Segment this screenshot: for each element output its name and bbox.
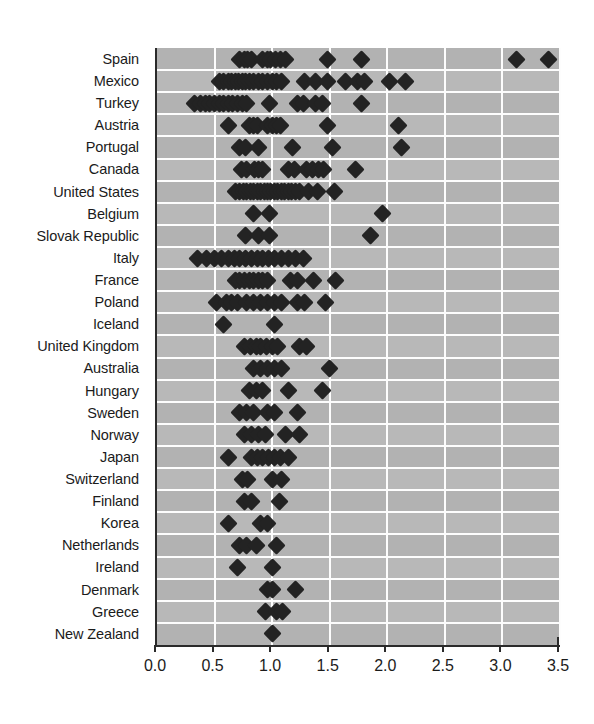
row-band — [157, 534, 560, 556]
category-label-japan: Japan — [0, 450, 139, 465]
x-tick-3.5 — [557, 645, 559, 652]
x-tick-label-1.5: 1.5 — [298, 657, 358, 675]
category-label-new-zealand: New Zealand — [0, 627, 139, 642]
category-label-poland: Poland — [0, 295, 139, 310]
row-separator — [157, 423, 560, 425]
x-tick-2.5 — [442, 645, 444, 652]
category-label-finland: Finland — [0, 494, 139, 509]
x-tick-1.0 — [269, 645, 271, 652]
plot-area — [155, 48, 560, 645]
row-band — [157, 203, 560, 225]
row-separator — [157, 91, 560, 93]
row-separator — [157, 578, 560, 580]
x-tick-0.5 — [212, 645, 214, 652]
row-band — [157, 380, 560, 402]
category-label-portugal: Portugal — [0, 140, 139, 155]
row-separator — [157, 489, 560, 491]
category-label-denmark: Denmark — [0, 583, 139, 598]
x-tick-label-0.5: 0.5 — [183, 657, 243, 675]
gridline-2.0 — [386, 48, 388, 645]
row-separator — [157, 312, 560, 314]
category-label-belgium: Belgium — [0, 207, 139, 222]
category-axis-labels: SpainMexicoTurkeyAustriaPortugalCanadaUn… — [0, 48, 147, 645]
row-band — [157, 181, 560, 203]
row-separator — [157, 511, 560, 513]
row-separator — [157, 180, 560, 182]
row-separator — [157, 113, 560, 115]
row-separator — [157, 445, 560, 447]
gridline-2.5 — [444, 48, 446, 645]
row-separator — [157, 401, 560, 403]
x-tick-3.0 — [499, 645, 501, 652]
x-tick-label-2.0: 2.0 — [355, 657, 415, 675]
category-label-canada: Canada — [0, 162, 139, 177]
category-label-spain: Spain — [0, 52, 139, 67]
category-label-greece: Greece — [0, 605, 139, 620]
row-band — [157, 468, 560, 490]
row-separator — [157, 158, 560, 160]
x-tick-label-1.0: 1.0 — [240, 657, 300, 675]
category-label-ireland: Ireland — [0, 560, 139, 575]
row-band — [157, 623, 560, 645]
row-band — [157, 557, 560, 579]
gridline-0.5 — [214, 48, 216, 645]
row-band — [157, 335, 560, 357]
dot-plot-chart: SpainMexicoTurkeyAustriaPortugalCanadaUn… — [0, 0, 594, 724]
row-separator — [157, 622, 560, 624]
row-separator — [157, 135, 560, 137]
category-label-australia: Australia — [0, 361, 139, 376]
category-label-turkey: Turkey — [0, 96, 139, 111]
gridline-3.5 — [559, 48, 561, 645]
row-band — [157, 601, 560, 623]
row-separator — [157, 334, 560, 336]
category-label-united-kingdom: United Kingdom — [0, 339, 139, 354]
category-label-netherlands: Netherlands — [0, 538, 139, 553]
row-separator — [157, 357, 560, 359]
category-label-slovak-republic: Slovak Republic — [0, 229, 139, 244]
category-label-mexico: Mexico — [0, 74, 139, 89]
category-label-france: France — [0, 273, 139, 288]
category-label-italy: Italy — [0, 251, 139, 266]
category-label-switzerland: Switzerland — [0, 472, 139, 487]
row-band — [157, 269, 560, 291]
row-band — [157, 225, 560, 247]
row-band — [157, 136, 560, 158]
x-tick-0.0 — [154, 645, 156, 652]
category-label-korea: Korea — [0, 516, 139, 531]
row-separator — [157, 379, 560, 381]
x-tick-label-3.5: 3.5 — [528, 657, 588, 675]
row-band — [157, 114, 560, 136]
x-tick-label-2.5: 2.5 — [413, 657, 473, 675]
category-label-norway: Norway — [0, 428, 139, 443]
x-tick-label-0.0: 0.0 — [125, 657, 185, 675]
x-tick-2.0 — [384, 645, 386, 652]
row-band — [157, 490, 560, 512]
row-separator — [157, 202, 560, 204]
row-band — [157, 446, 560, 468]
row-separator — [157, 600, 560, 602]
row-band — [157, 579, 560, 601]
category-label-austria: Austria — [0, 118, 139, 133]
category-label-sweden: Sweden — [0, 406, 139, 421]
row-separator — [157, 268, 560, 270]
row-band — [157, 358, 560, 380]
row-separator — [157, 556, 560, 558]
row-separator — [157, 467, 560, 469]
row-separator — [157, 224, 560, 226]
row-separator — [157, 290, 560, 292]
row-band — [157, 424, 560, 446]
category-label-iceland: Iceland — [0, 317, 139, 332]
x-tick-label-3.0: 3.0 — [470, 657, 530, 675]
x-tick-1.5 — [327, 645, 329, 652]
row-separator — [157, 69, 560, 71]
row-separator — [157, 246, 560, 248]
category-label-united-states: United States — [0, 185, 139, 200]
row-band — [157, 402, 560, 424]
row-band — [157, 512, 560, 534]
category-label-hungary: Hungary — [0, 384, 139, 399]
gridline-1.5 — [329, 48, 331, 645]
row-separator — [157, 533, 560, 535]
gridline-3.0 — [501, 48, 503, 645]
